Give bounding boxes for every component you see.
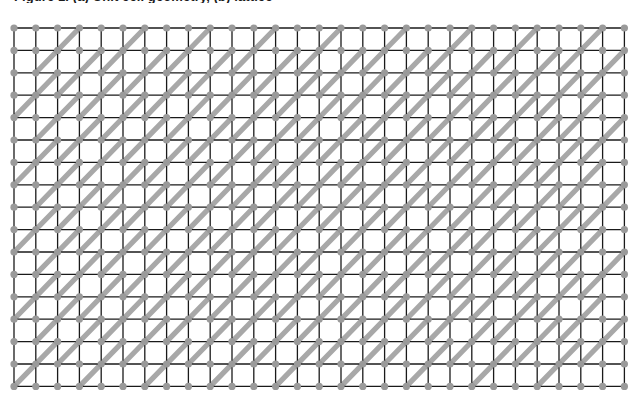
lattice-node	[228, 181, 235, 188]
lattice-node	[119, 204, 126, 211]
lattice-node	[54, 181, 61, 188]
lattice-node	[555, 271, 562, 278]
lattice-node	[272, 271, 279, 278]
lattice-node	[76, 47, 83, 54]
lattice-node	[403, 226, 410, 233]
lattice-node	[468, 47, 475, 54]
lattice-node	[555, 136, 562, 143]
lattice-node	[512, 92, 519, 99]
lattice-node	[98, 159, 105, 166]
lattice-node	[119, 293, 126, 300]
lattice-node	[534, 293, 541, 300]
lattice-node	[98, 92, 105, 99]
lattice-node	[119, 136, 126, 143]
lattice-node	[555, 92, 562, 99]
lattice-node	[98, 114, 105, 121]
lattice-node	[577, 248, 584, 255]
lattice-node	[490, 114, 497, 121]
lattice-node	[54, 293, 61, 300]
lattice-node	[468, 159, 475, 166]
lattice-node	[403, 271, 410, 278]
lattice-node	[468, 316, 475, 323]
lattice-node	[425, 316, 432, 323]
lattice-node	[381, 136, 388, 143]
lattice-node	[425, 92, 432, 99]
lattice-node	[294, 338, 301, 345]
lattice-node	[228, 204, 235, 211]
lattice-node	[141, 92, 148, 99]
lattice-node	[359, 136, 366, 143]
lattice-node	[98, 338, 105, 345]
lattice-node	[272, 360, 279, 367]
lattice-node	[599, 92, 606, 99]
lattice-node	[98, 271, 105, 278]
lattice-node	[207, 338, 214, 345]
lattice-node	[403, 293, 410, 300]
lattice-node	[98, 204, 105, 211]
lattice-node	[316, 316, 323, 323]
lattice-node	[228, 226, 235, 233]
lattice-node	[381, 181, 388, 188]
lattice-node	[316, 338, 323, 345]
lattice-node	[272, 69, 279, 76]
lattice-node	[577, 360, 584, 367]
lattice-node	[577, 293, 584, 300]
lattice-node	[228, 316, 235, 323]
lattice-node	[599, 47, 606, 54]
lattice-node	[250, 248, 257, 255]
lattice-node	[446, 159, 453, 166]
lattice-node	[621, 383, 628, 390]
lattice-node	[468, 226, 475, 233]
lattice-node	[599, 159, 606, 166]
lattice-node	[98, 69, 105, 76]
lattice-node	[272, 248, 279, 255]
lattice-node	[403, 248, 410, 255]
lattice-node	[446, 24, 453, 31]
lattice-node	[599, 338, 606, 345]
lattice-node	[621, 181, 628, 188]
lattice-node	[10, 204, 17, 211]
lattice-node	[10, 226, 17, 233]
lattice-node	[359, 383, 366, 390]
lattice-node	[621, 204, 628, 211]
lattice-node	[337, 69, 344, 76]
lattice-node	[621, 92, 628, 99]
lattice-node	[228, 136, 235, 143]
lattice-node	[468, 338, 475, 345]
lattice-node	[468, 360, 475, 367]
lattice-node	[272, 24, 279, 31]
lattice-node	[425, 293, 432, 300]
lattice-node	[54, 360, 61, 367]
lattice-node	[490, 47, 497, 54]
lattice-node	[599, 69, 606, 76]
lattice-node	[250, 338, 257, 345]
lattice-node	[534, 226, 541, 233]
lattice-node	[119, 360, 126, 367]
lattice-node	[185, 114, 192, 121]
lattice-node	[512, 181, 519, 188]
lattice-node	[577, 271, 584, 278]
lattice-node	[425, 47, 432, 54]
lattice-node	[577, 204, 584, 211]
lattice-node	[207, 360, 214, 367]
lattice-node	[10, 181, 17, 188]
lattice-node	[316, 69, 323, 76]
lattice-node	[141, 181, 148, 188]
lattice-node	[76, 24, 83, 31]
lattice-node	[316, 360, 323, 367]
lattice-node	[141, 226, 148, 233]
lattice-node	[359, 360, 366, 367]
lattice-node	[163, 24, 170, 31]
lattice-node	[621, 338, 628, 345]
lattice-node	[490, 92, 497, 99]
lattice-node	[577, 226, 584, 233]
lattice-node	[468, 24, 475, 31]
lattice-node	[185, 271, 192, 278]
lattice-node	[294, 114, 301, 121]
lattice-node	[32, 92, 39, 99]
lattice-node	[446, 114, 453, 121]
lattice-node	[272, 316, 279, 323]
lattice-node	[294, 226, 301, 233]
lattice-node	[403, 360, 410, 367]
lattice-node	[403, 24, 410, 31]
